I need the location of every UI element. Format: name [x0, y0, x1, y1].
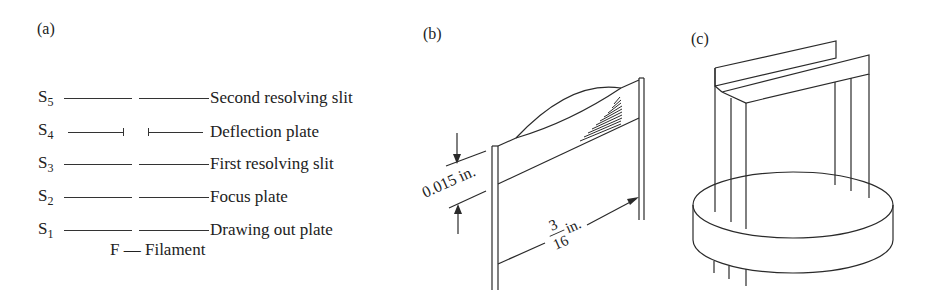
back-plate [715, 41, 836, 86]
base-disc-bottom [693, 240, 893, 273]
base-disc-top [693, 172, 893, 238]
panel-c-drawing [0, 0, 925, 299]
